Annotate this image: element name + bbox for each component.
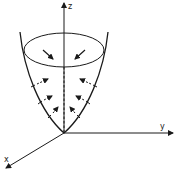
arrow-icon [53, 107, 58, 113]
arrow-icon [80, 79, 91, 84]
arrow-icon [76, 96, 84, 100]
arrow-icon [44, 96, 52, 100]
arrow-icon [37, 79, 48, 84]
arrow-icon [75, 50, 85, 59]
x-axis-label: x [4, 155, 9, 164]
arrow-icon [43, 50, 53, 59]
paraboloid-diagram: z y x [0, 0, 175, 175]
y-axis-label: y [160, 122, 165, 131]
left-side-normals [31, 79, 58, 118]
x-axis [6, 133, 64, 168]
arrow-icon [70, 107, 75, 113]
z-axis-label: z [68, 2, 72, 11]
right-side-normals [70, 79, 97, 118]
